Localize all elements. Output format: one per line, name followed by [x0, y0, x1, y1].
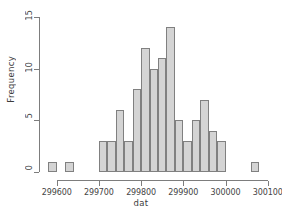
histogram-bar	[116, 110, 124, 172]
histogram-bar	[166, 27, 174, 172]
histogram-bar	[65, 162, 73, 172]
histogram-bars	[44, 15, 272, 172]
histogram-bar	[158, 58, 166, 172]
y-axis-tick-label: 10	[25, 62, 34, 73]
x-axis-tick	[57, 181, 58, 186]
histogram-bar	[48, 162, 56, 172]
histogram-bar	[183, 141, 191, 172]
y-axis-tick	[34, 172, 39, 173]
x-axis-line	[57, 180, 268, 181]
x-axis-tick-label: 300100	[253, 188, 282, 197]
y-axis-tick	[34, 17, 39, 18]
y-axis-tick	[34, 120, 39, 121]
histogram-bar	[99, 141, 107, 172]
x-axis-tick	[226, 181, 227, 186]
histogram-bar	[150, 69, 158, 172]
histogram-bar	[133, 89, 141, 172]
histogram-bar	[192, 120, 200, 172]
x-axis-tick	[99, 181, 100, 186]
x-axis-tick	[141, 181, 142, 186]
histogram-bar	[209, 131, 217, 172]
y-axis-tick-label: 0	[25, 165, 34, 170]
histogram-bar	[217, 141, 225, 172]
y-axis-title: Frequency	[6, 56, 16, 103]
histogram-bar	[200, 100, 208, 172]
x-axis-tick	[268, 181, 269, 186]
x-axis-tick-label: 299600	[42, 188, 72, 197]
histogram-plot: 051015 299600299700299800299900300000300…	[0, 0, 282, 216]
x-axis-tick	[183, 181, 184, 186]
y-axis-tick	[34, 69, 39, 70]
x-axis-tick-label: 299700	[84, 188, 114, 197]
histogram-bar	[175, 120, 183, 172]
y-axis-tick-label: 5	[25, 113, 34, 118]
histogram-bar	[141, 48, 149, 172]
y-axis-line	[39, 17, 40, 172]
histogram-bar	[251, 162, 259, 172]
histogram-bar	[107, 141, 115, 172]
plot-area	[44, 15, 272, 172]
x-axis-tick-label: 300000	[211, 188, 241, 197]
y-axis-tick-label: 15	[25, 10, 34, 21]
x-axis-title: dat	[0, 198, 282, 208]
x-axis-tick-label: 299900	[168, 188, 198, 197]
x-axis-tick-label: 299800	[126, 188, 156, 197]
histogram-bar	[124, 141, 132, 172]
